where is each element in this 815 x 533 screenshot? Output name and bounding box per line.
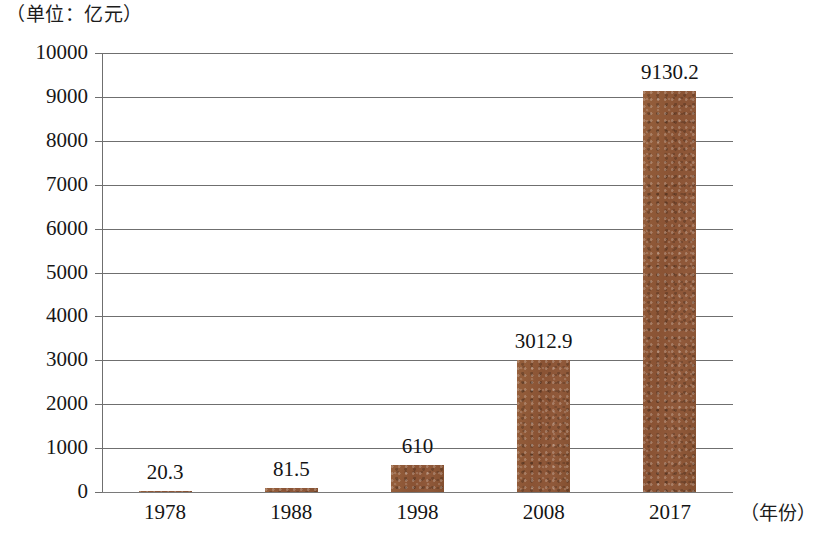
y-axis-tick (95, 97, 102, 98)
bar-value-label: 3012.9 (474, 331, 614, 352)
y-axis-tick-label: 4000 (0, 305, 88, 326)
y-axis-tick-label: 1000 (0, 437, 88, 458)
y-axis-tick (95, 492, 102, 493)
x-axis-tick-label: 2008 (474, 500, 614, 524)
y-axis-tick-label: 3000 (0, 349, 88, 370)
unit-caption: （单位：亿元） (6, 2, 143, 28)
bar-value-label: 9130.2 (600, 62, 740, 83)
y-axis-tick-label: 10000 (0, 42, 88, 63)
y-axis-tick (95, 53, 102, 54)
bar-chart: （单位：亿元） 10000900080007000600050004000300… (0, 0, 815, 533)
y-axis-tick (95, 316, 102, 317)
y-axis-tick (95, 273, 102, 274)
y-axis-tick-label: 9000 (0, 86, 88, 107)
bar-value-label: 610 (348, 436, 488, 457)
bar (517, 360, 570, 492)
y-axis-tick (95, 448, 102, 449)
bar (391, 465, 444, 492)
x-axis-tick-label: 1998 (348, 500, 488, 524)
bar (643, 91, 696, 492)
y-axis-tick (95, 229, 102, 230)
bar-value-label: 81.5 (221, 459, 361, 480)
bar-value-label: 20.3 (95, 462, 235, 483)
y-axis-tick-label: 0 (0, 481, 88, 502)
y-axis-tick (95, 404, 102, 405)
y-axis-tick-label: 6000 (0, 218, 88, 239)
y-axis-tick-label: 5000 (0, 262, 88, 283)
y-axis-tick (95, 360, 102, 361)
y-axis-tick (95, 141, 102, 142)
y-axis-tick-label: 8000 (0, 130, 88, 151)
y-axis-tick-label: 7000 (0, 174, 88, 195)
x-axis-tick-label: 1978 (95, 500, 235, 524)
plot-area (102, 53, 733, 492)
x-axis-line (102, 492, 733, 493)
x-axis-tick-label: 1988 (221, 500, 361, 524)
y-axis-tick-label: 2000 (0, 393, 88, 414)
x-axis-title: （年份） (740, 502, 815, 526)
x-axis-tick-label: 2017 (600, 500, 740, 524)
y-axis-tick (95, 185, 102, 186)
